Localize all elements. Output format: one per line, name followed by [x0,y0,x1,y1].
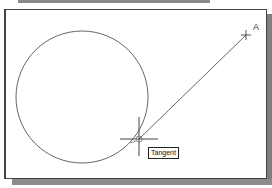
tangent-line-entity[interactable] [139,35,246,139]
circle-entity[interactable] [16,31,148,163]
snap-tooltip: Tangent [148,147,179,159]
point-a-label: A [253,22,259,32]
drawing-layer [0,0,272,188]
